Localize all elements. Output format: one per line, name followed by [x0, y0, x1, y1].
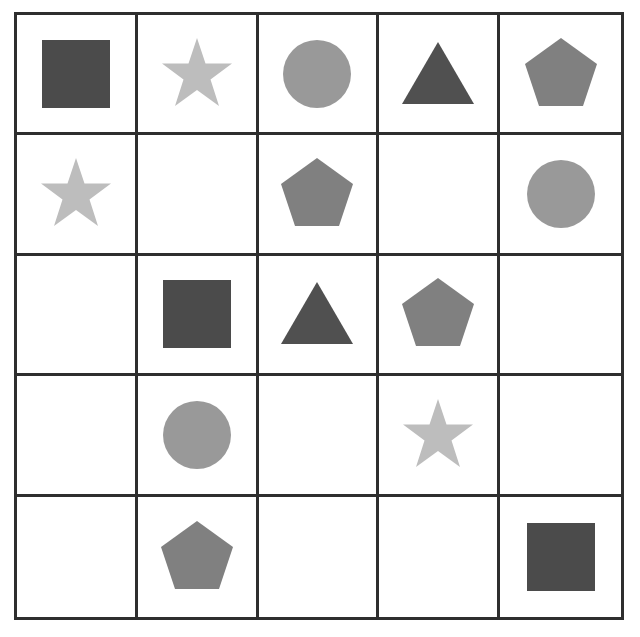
grid-cell-r3-c3	[259, 256, 380, 376]
grid-cell-r5-c3	[259, 497, 380, 617]
pentagon-icon	[279, 156, 355, 232]
grid-cell-r1-c5	[500, 15, 621, 135]
grid-cell-r2-c1	[17, 135, 138, 255]
grid-cell-r4-c5	[500, 376, 621, 496]
circle-icon	[523, 156, 599, 232]
grid-cell-r1-c2	[138, 15, 259, 135]
grid-cell-r3-c1	[17, 256, 138, 376]
grid-cell-r4-c3	[259, 376, 380, 496]
star-icon	[400, 397, 476, 473]
grid-cell-r5-c5	[500, 497, 621, 617]
grid-cell-r4-c1	[17, 376, 138, 496]
square-icon	[38, 36, 114, 112]
star-icon	[38, 156, 114, 232]
pentagon-icon	[523, 36, 599, 112]
grid-cell-r1-c3	[259, 15, 380, 135]
triangle-icon	[400, 36, 476, 112]
grid-cell-r4-c2	[138, 376, 259, 496]
star-icon	[159, 36, 235, 112]
grid-cell-r3-c5	[500, 256, 621, 376]
grid-cell-r1-c4	[379, 15, 500, 135]
pentagon-icon	[159, 519, 235, 595]
triangle-icon	[279, 276, 355, 352]
circle-icon	[279, 36, 355, 112]
pentagon-icon	[400, 276, 476, 352]
grid-cell-r5-c1	[17, 497, 138, 617]
grid-cell-r4-c4	[379, 376, 500, 496]
circle-icon	[159, 397, 235, 473]
grid-cell-r2-c2	[138, 135, 259, 255]
grid-cell-r3-c4	[379, 256, 500, 376]
square-icon	[159, 276, 235, 352]
grid-cell-r5-c4	[379, 497, 500, 617]
square-icon	[523, 519, 599, 595]
grid-cell-r2-c4	[379, 135, 500, 255]
grid-cell-r1-c1	[17, 15, 138, 135]
grid-cell-r3-c2	[138, 256, 259, 376]
grid-cell-r5-c2	[138, 497, 259, 617]
grid-cell-r2-c5	[500, 135, 621, 255]
grid-cell-r2-c3	[259, 135, 380, 255]
shape-grid	[14, 12, 624, 620]
